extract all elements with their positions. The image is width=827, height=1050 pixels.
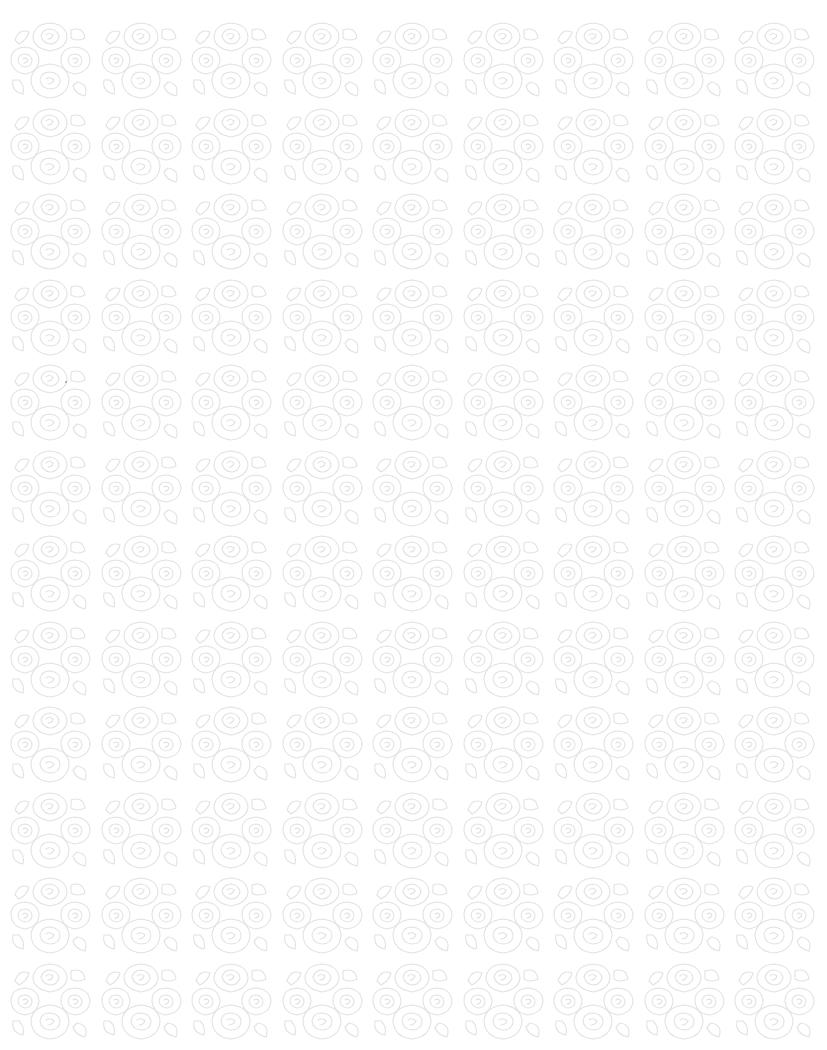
rose-bouquet-tile xyxy=(96,873,186,958)
rose-bouquet-tile xyxy=(367,873,457,958)
rose-bouquet-icon xyxy=(458,788,548,873)
rose-bouquet-tile xyxy=(96,104,186,189)
rose-bouquet-icon xyxy=(367,959,457,1044)
rose-bouquet-tile xyxy=(548,275,638,360)
rose-bouquet-tile xyxy=(367,959,457,1044)
rose-bouquet-icon xyxy=(548,360,638,445)
rose-bouquet-tile xyxy=(729,189,819,274)
rose-bouquet-tile xyxy=(277,275,367,360)
rose-bouquet-tile xyxy=(5,617,95,702)
rose-bouquet-tile xyxy=(5,873,95,958)
rose-bouquet-tile xyxy=(96,18,186,103)
rose-bouquet-tile xyxy=(5,104,95,189)
rose-bouquet-tile xyxy=(5,531,95,616)
rose-bouquet-icon xyxy=(639,18,729,103)
rose-bouquet-tile xyxy=(186,702,276,787)
rose-bouquet-tile xyxy=(96,360,186,445)
rose-bouquet-icon xyxy=(5,617,95,702)
rose-bouquet-tile xyxy=(96,446,186,531)
rose-bouquet-icon xyxy=(729,702,819,787)
rose-bouquet-icon xyxy=(729,18,819,103)
rose-bouquet-icon xyxy=(458,531,548,616)
rose-bouquet-icon xyxy=(186,873,276,958)
rose-bouquet-tile xyxy=(186,360,276,445)
rose-bouquet-tile xyxy=(548,617,638,702)
rose-bouquet-icon xyxy=(5,104,95,189)
rose-bouquet-tile xyxy=(186,617,276,702)
rose-bouquet-icon xyxy=(5,189,95,274)
rose-bouquet-tile xyxy=(548,873,638,958)
rose-bouquet-icon xyxy=(367,104,457,189)
rose-bouquet-icon xyxy=(277,18,367,103)
rose-bouquet-icon xyxy=(548,702,638,787)
rose-bouquet-icon xyxy=(639,104,729,189)
rose-bouquet-icon xyxy=(729,275,819,360)
rose-bouquet-icon xyxy=(367,788,457,873)
rose-bouquet-tile xyxy=(639,189,729,274)
rose-bouquet-icon xyxy=(729,788,819,873)
rose-bouquet-icon xyxy=(729,959,819,1044)
rose-bouquet-tile xyxy=(96,531,186,616)
rose-bouquet-tile xyxy=(367,702,457,787)
rose-bouquet-icon xyxy=(367,446,457,531)
rose-bouquet-icon xyxy=(458,959,548,1044)
rose-bouquet-tile xyxy=(729,702,819,787)
rose-bouquet-tile xyxy=(277,189,367,274)
rose-bouquet-tile xyxy=(729,360,819,445)
rose-bouquet-tile xyxy=(729,873,819,958)
rose-bouquet-tile xyxy=(186,446,276,531)
rose-bouquet-icon xyxy=(639,702,729,787)
rose-bouquet-icon xyxy=(5,788,95,873)
rose-bouquet-tile xyxy=(729,275,819,360)
rose-bouquet-tile xyxy=(277,617,367,702)
rose-bouquet-icon xyxy=(548,18,638,103)
rose-bouquet-icon xyxy=(96,189,186,274)
rose-bouquet-tile xyxy=(639,446,729,531)
rose-bouquet-tile xyxy=(367,18,457,103)
rose-bouquet-tile xyxy=(277,531,367,616)
rose-bouquet-icon xyxy=(548,873,638,958)
rose-bouquet-tile xyxy=(186,104,276,189)
rose-bouquet-icon xyxy=(548,617,638,702)
rose-bouquet-icon xyxy=(639,189,729,274)
rose-bouquet-tile xyxy=(367,275,457,360)
rose-bouquet-icon xyxy=(548,189,638,274)
rose-bouquet-tile xyxy=(548,788,638,873)
rose-bouquet-icon xyxy=(5,275,95,360)
rose-bouquet-tile xyxy=(277,959,367,1044)
rose-bouquet-icon xyxy=(639,531,729,616)
rose-bouquet-icon xyxy=(548,788,638,873)
rose-bouquet-icon xyxy=(96,702,186,787)
rose-bouquet-tile xyxy=(548,104,638,189)
rose-bouquet-icon xyxy=(548,104,638,189)
rose-bouquet-icon xyxy=(367,360,457,445)
rose-bouquet-tile xyxy=(548,189,638,274)
rose-bouquet-icon xyxy=(548,959,638,1044)
rose-bouquet-tile xyxy=(639,531,729,616)
rose-bouquet-tile xyxy=(458,189,548,274)
rose-bouquet-icon xyxy=(186,446,276,531)
rose-bouquet-icon xyxy=(277,275,367,360)
rose-bouquet-tile xyxy=(5,275,95,360)
rose-bouquet-tile xyxy=(5,18,95,103)
rose-bouquet-icon xyxy=(186,959,276,1044)
rose-bouquet-icon xyxy=(458,446,548,531)
rose-bouquet-icon xyxy=(5,360,95,445)
rose-bouquet-tile xyxy=(367,104,457,189)
rose-bouquet-icon xyxy=(548,531,638,616)
rose-bouquet-icon xyxy=(367,189,457,274)
rose-bouquet-icon xyxy=(186,788,276,873)
rose-bouquet-tile xyxy=(367,617,457,702)
rose-bouquet-tile xyxy=(729,531,819,616)
rose-bouquet-icon xyxy=(277,617,367,702)
rose-bouquet-tile xyxy=(639,788,729,873)
rose-bouquet-icon xyxy=(639,873,729,958)
rose-bouquet-icon xyxy=(96,18,186,103)
rose-bouquet-tile xyxy=(96,275,186,360)
rose-bouquet-tile xyxy=(277,702,367,787)
rose-bouquet-tile xyxy=(458,702,548,787)
rose-pattern-grid xyxy=(5,18,820,1044)
rose-bouquet-icon xyxy=(96,531,186,616)
rose-bouquet-tile xyxy=(639,617,729,702)
rose-bouquet-tile xyxy=(96,617,186,702)
